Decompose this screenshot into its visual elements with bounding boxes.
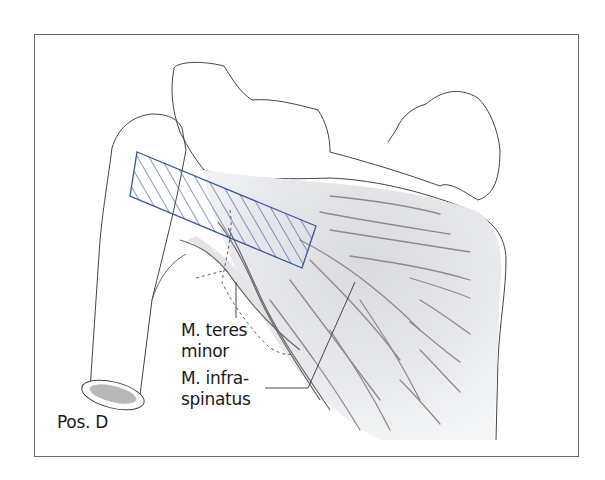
label-infraspinatus-line2: spinatus	[181, 389, 250, 410]
label-teres-minor-line2: minor	[181, 341, 247, 362]
shoulder-anatomy-illustration	[0, 0, 605, 480]
label-infraspinatus-line1: M. infra-	[181, 368, 250, 389]
label-teres-minor-line1: M. teres	[181, 320, 247, 341]
humerus	[79, 114, 186, 415]
label-teres-minor: M. teres minor	[181, 320, 247, 362]
position-label: Pos. D	[57, 412, 108, 433]
label-infraspinatus: M. infra- spinatus	[181, 368, 250, 410]
